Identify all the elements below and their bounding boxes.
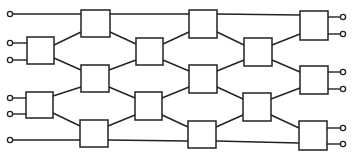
connection-line — [54, 32, 81, 45]
switch-box-s6c — [299, 121, 327, 150]
output-terminal-out3 — [340, 69, 345, 74]
switching-network-diagram — [0, 0, 353, 154]
output-terminal-out5 — [340, 125, 345, 130]
connection-line — [163, 32, 189, 44]
switch-box-s5a — [244, 38, 272, 66]
switch-box-s3a — [136, 38, 163, 65]
connection-line — [217, 14, 300, 15]
connection-line — [217, 32, 244, 45]
switch-box-s2b — [81, 65, 109, 92]
connection-line — [272, 34, 300, 45]
connection-line — [108, 140, 188, 141]
switch-box-s6b — [300, 66, 328, 94]
output-terminal-out2 — [340, 31, 345, 36]
input-terminal-in6 — [7, 137, 12, 142]
input-terminal-in5 — [7, 111, 12, 116]
switch-box-s2a — [81, 10, 110, 37]
switch-boxes — [26, 10, 328, 150]
connection-lines — [13, 14, 340, 144]
connection-line — [109, 60, 136, 70]
input-terminal-in1 — [7, 11, 12, 16]
connection-line — [271, 88, 300, 99]
output-terminal-out6 — [340, 141, 345, 146]
output-terminal-out4 — [340, 86, 345, 91]
input-terminal-in2 — [7, 40, 12, 45]
connection-line — [53, 113, 80, 126]
switch-box-s6a — [300, 11, 328, 40]
switch-box-s4b — [189, 65, 217, 93]
connection-line — [162, 87, 189, 98]
connection-line — [272, 60, 300, 72]
switch-box-s5b — [243, 93, 271, 121]
connection-line — [53, 87, 81, 96]
switch-box-s1b — [26, 92, 53, 118]
input-terminal-in4 — [7, 95, 12, 100]
switch-box-s3b — [135, 92, 162, 120]
switch-box-s1a — [27, 37, 54, 64]
connection-line — [216, 141, 299, 143]
output-terminal-out1 — [340, 14, 345, 19]
connection-line — [216, 115, 243, 127]
connection-line — [163, 60, 189, 71]
connection-line — [54, 58, 81, 70]
connection-line — [109, 87, 135, 98]
connection-line — [108, 115, 135, 126]
connection-line — [110, 32, 136, 44]
connection-line — [162, 115, 188, 127]
connection-line — [217, 60, 244, 71]
switch-box-s2c — [80, 120, 108, 147]
connection-line — [271, 115, 299, 128]
connection-line — [217, 87, 243, 99]
input-terminal-in3 — [7, 57, 12, 62]
switch-box-s4c — [188, 121, 216, 148]
switch-box-s4a — [189, 10, 217, 38]
